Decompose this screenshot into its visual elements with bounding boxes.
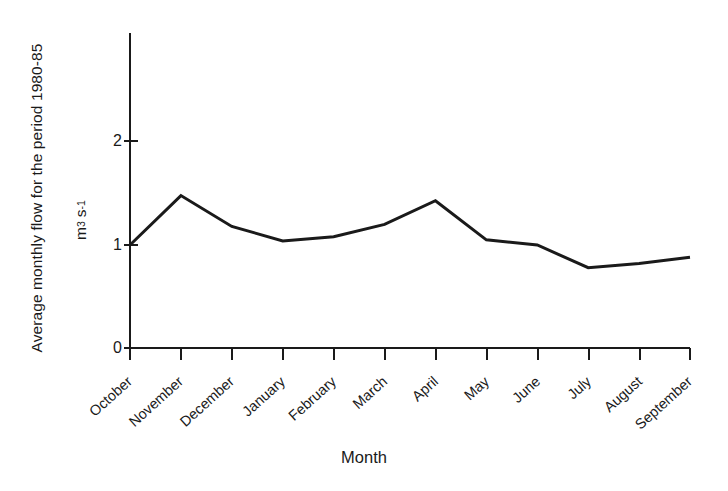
- x-axis-title: Month: [0, 448, 728, 467]
- plot-area: [0, 0, 728, 491]
- figure-container: Average monthly flow for the period 1980…: [0, 0, 728, 491]
- x-axis-ticks: [130, 341, 690, 360]
- data-series-line: [130, 196, 690, 268]
